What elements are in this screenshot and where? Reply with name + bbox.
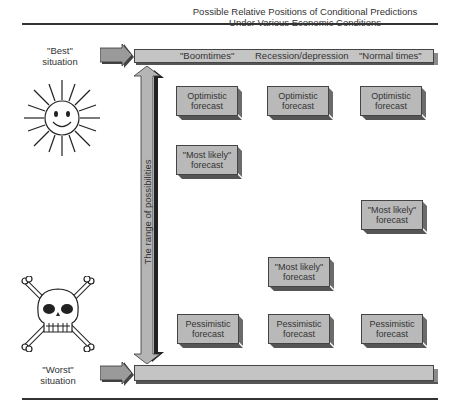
pessimistic-forecast-normal: Pessimisticforecast <box>361 314 423 344</box>
bottom-axis-arrow <box>100 362 136 392</box>
bottom-bar-side <box>434 369 438 382</box>
smiling-sun-icon <box>22 78 102 158</box>
pessimistic-forecast-recession: Pessimisticforecast <box>268 314 330 344</box>
skull-crossbones-icon <box>18 276 98 352</box>
bottom-rule <box>22 398 438 400</box>
top-axis-bar: "Boomtimes" Recession/depression "Normal… <box>134 49 434 63</box>
most-likely-forecast-recession: "Most likely"forecast <box>268 257 330 287</box>
column-header-boomtimes: "Boomtimes" <box>180 48 234 64</box>
bottom-axis-bar <box>134 365 434 381</box>
optimistic-forecast-recession: Optimisticforecast <box>267 86 329 116</box>
column-header-normal: "Normal times" <box>359 48 422 64</box>
optimistic-forecast-boomtimes: Optimisticforecast <box>176 86 238 116</box>
top-bar-side <box>434 53 438 65</box>
column-header-recession: Recession/depression <box>255 48 348 64</box>
worst-situation-label: "Worst" situation <box>28 364 88 386</box>
range-axis-label: The range of possibilities <box>142 112 154 312</box>
most-likely-forecast-boomtimes: "Most likely"forecast <box>176 145 238 175</box>
pessimistic-forecast-boomtimes: Pessimisticforecast <box>177 314 239 344</box>
optimistic-forecast-normal: Optimisticforecast <box>360 86 422 116</box>
top-axis-arrow <box>100 44 136 74</box>
most-likely-forecast-normal: "Most likely"forecast <box>361 200 423 230</box>
best-situation-label: "Best" situation <box>30 45 90 67</box>
diagram-title: Possible Relative Positions of Condition… <box>160 6 450 28</box>
